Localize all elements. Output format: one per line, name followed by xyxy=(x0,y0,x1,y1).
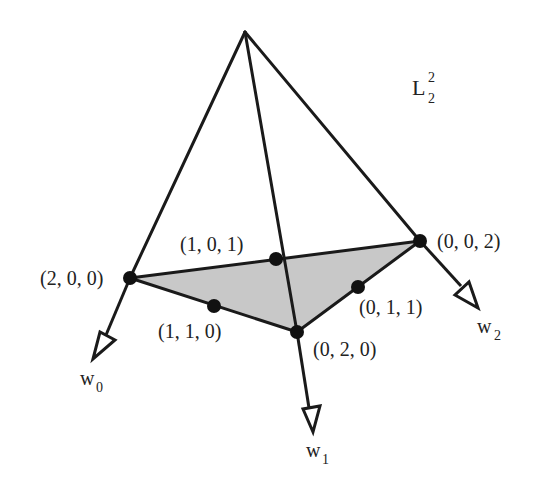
svg-text:2: 2 xyxy=(428,91,435,106)
point-110 xyxy=(207,299,221,313)
label-101: (1, 0, 1) xyxy=(180,233,243,256)
point-020 xyxy=(290,325,304,339)
diagram-title: L 2 2 xyxy=(412,70,435,106)
point-200 xyxy=(123,271,137,285)
label-200: (2, 0, 0) xyxy=(40,267,103,290)
svg-text:w: w xyxy=(306,439,321,461)
svg-text:L: L xyxy=(412,75,425,100)
svg-text:w: w xyxy=(477,315,492,337)
svg-text:2: 2 xyxy=(428,70,435,85)
point-011 xyxy=(351,280,365,294)
arrow-w2-icon xyxy=(455,282,478,308)
point-002 xyxy=(413,234,427,248)
label-002: (0, 0, 2) xyxy=(437,230,500,253)
label-110: (1, 1, 0) xyxy=(158,320,221,343)
label-w1: w 1 xyxy=(306,439,329,467)
svg-text:1: 1 xyxy=(322,452,329,467)
label-011: (0, 1, 1) xyxy=(359,296,422,319)
label-w2: w 2 xyxy=(477,315,501,343)
arrow-w1-icon xyxy=(303,406,320,432)
simplex-diagram: L 2 2 (2, 0, 0) (0, 2, 0) (0, 0, 2) (1, … xyxy=(0,0,547,486)
label-020: (0, 2, 0) xyxy=(313,338,376,361)
svg-text:2: 2 xyxy=(494,328,501,343)
svg-text:w: w xyxy=(80,367,95,389)
arrow-w0-icon xyxy=(93,332,115,359)
svg-text:0: 0 xyxy=(96,380,103,395)
point-101 xyxy=(269,252,283,266)
label-w0: w 0 xyxy=(80,367,103,395)
